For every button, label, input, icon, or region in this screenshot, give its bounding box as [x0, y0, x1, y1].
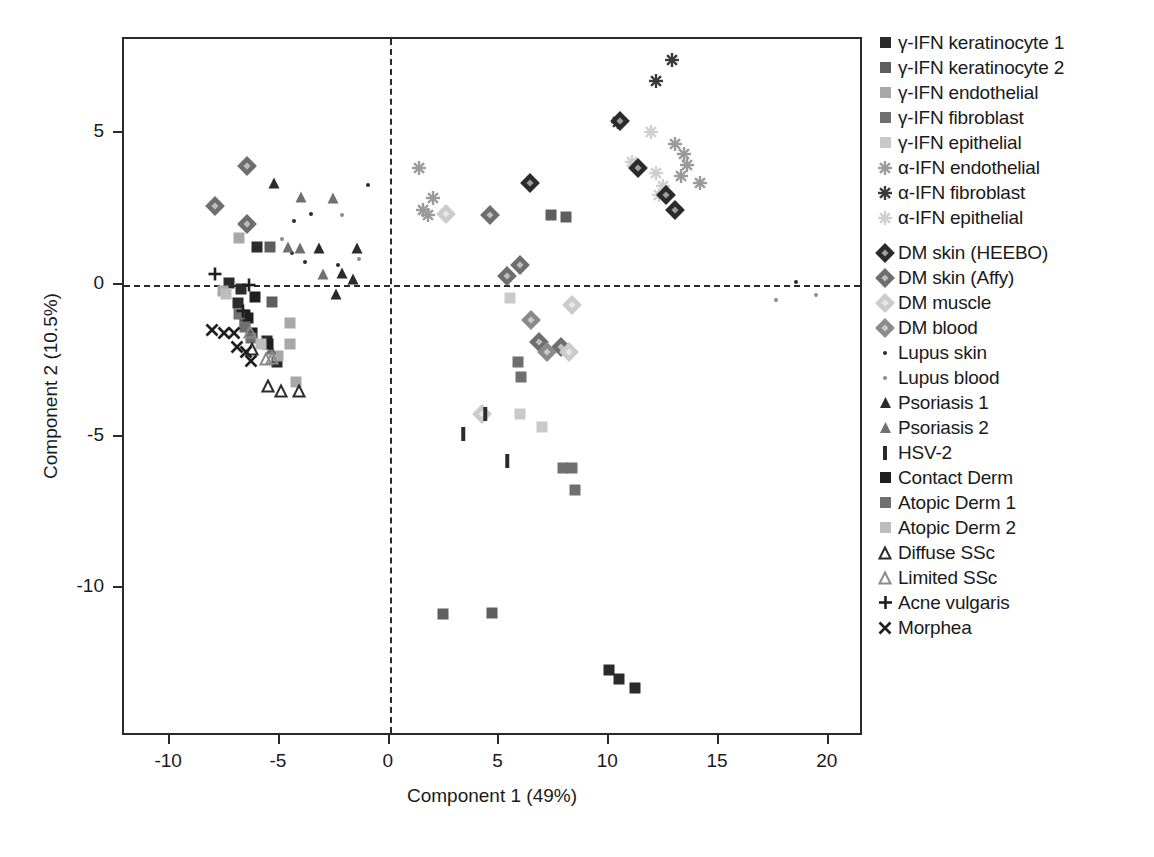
square-marker-icon: [570, 484, 581, 495]
data-point: [239, 317, 250, 328]
square-marker-icon: [546, 210, 557, 221]
data-point: [208, 267, 223, 282]
legend-item[interactable]: Contact Derm: [872, 465, 1152, 490]
data-point: [505, 454, 509, 468]
legend-swatch: [872, 490, 898, 515]
data-point: [537, 422, 548, 433]
data-point: [336, 266, 349, 279]
diamond-inner-notch: [478, 410, 485, 417]
legend-swatch: [872, 130, 898, 155]
diamond-inner-notch: [672, 207, 679, 214]
bar-marker-icon: [883, 446, 887, 460]
triangle-marker-icon: [316, 268, 329, 281]
legend-label: Acne vulgaris: [898, 592, 1009, 614]
square-marker-icon: [515, 408, 526, 419]
square-marker-icon: [246, 332, 257, 343]
data-point: [251, 241, 262, 252]
legend-item[interactable]: γ-IFN fibroblast: [872, 105, 1152, 130]
legend-swatch: [872, 155, 898, 180]
legend-item[interactable]: Atopic Derm 1: [872, 490, 1152, 515]
data-point: [565, 298, 579, 312]
diamond-inner-notch: [543, 348, 550, 355]
data-point: [515, 408, 526, 419]
legend-label: α-IFN endothelial: [898, 157, 1040, 179]
plus-marker-icon: [235, 303, 250, 318]
data-point: [357, 257, 361, 261]
square-marker-icon: [234, 308, 245, 319]
diamond-marker-icon: [529, 333, 549, 353]
square-marker-icon: [513, 357, 524, 368]
legend-item[interactable]: Psoriasis 1: [872, 390, 1152, 415]
legend-item[interactable]: Diffuse SSc: [872, 540, 1152, 565]
legend-item[interactable]: DM skin (HEEBO): [872, 240, 1152, 265]
square-marker-icon: [265, 241, 276, 252]
legend-item[interactable]: α-IFN fibroblast: [872, 180, 1152, 205]
legend-item[interactable]: γ-IFN endothelial: [872, 80, 1152, 105]
diamond-inner-notch: [243, 221, 250, 228]
square-marker-icon: [272, 351, 283, 362]
data-point: [439, 207, 453, 221]
square-marker-icon: [221, 288, 232, 299]
legend-label: Morphea: [898, 617, 972, 639]
triangle-marker-icon: [313, 242, 326, 255]
data-point: [524, 313, 538, 327]
dot-marker-icon: [336, 263, 340, 267]
legend-swatch: [872, 55, 898, 80]
data-point: [329, 287, 342, 300]
triangle-marker-icon: [879, 396, 892, 409]
legend-swatch: [872, 565, 898, 590]
triangle-marker-icon: [265, 342, 278, 355]
legend-item[interactable]: Limited SSc: [872, 565, 1152, 590]
legend-item[interactable]: HSV-2: [872, 440, 1152, 465]
diamond-inner-notch: [881, 324, 888, 331]
square-marker-icon: [561, 211, 572, 222]
legend-item[interactable]: DM muscle: [872, 290, 1152, 315]
legend-label: DM blood: [898, 317, 978, 339]
data-point: [673, 168, 689, 184]
legend-item[interactable]: Lupus blood: [872, 365, 1152, 390]
legend-item[interactable]: α-IFN endothelial: [872, 155, 1152, 180]
legend-item[interactable]: Atopic Derm 2: [872, 515, 1152, 540]
legend-label: Psoriasis 2: [898, 417, 989, 439]
legend-item[interactable]: DM skin (Affy): [872, 265, 1152, 290]
dot-marker-icon: [883, 351, 887, 355]
square-marker-icon: [217, 285, 228, 296]
triangle-open-marker-icon: [261, 379, 275, 393]
legend-label: γ-IFN endothelial: [898, 82, 1038, 104]
legend-item[interactable]: Morphea: [872, 615, 1152, 640]
triangle-open-marker-icon: [265, 351, 279, 365]
data-point: [561, 211, 572, 222]
legend-item[interactable]: DM blood: [872, 315, 1152, 340]
dot-marker-icon: [774, 298, 778, 302]
legend-swatch: [872, 315, 898, 340]
legend-item[interactable]: Acne vulgaris: [872, 590, 1152, 615]
y-tick-label: 5: [93, 120, 104, 142]
diamond-marker-icon: [875, 293, 895, 313]
data-point: [554, 340, 568, 354]
dot-marker-icon: [814, 293, 818, 297]
diamond-marker-icon: [537, 342, 557, 362]
legend-item[interactable]: γ-IFN epithelial: [872, 130, 1152, 155]
dot-marker-icon: [303, 260, 307, 264]
diamond-marker-icon: [610, 111, 630, 131]
legend-item[interactable]: Psoriasis 2: [872, 415, 1152, 440]
dot-marker-icon: [366, 183, 370, 187]
legend-label: HSV-2: [898, 442, 952, 464]
data-point: [316, 268, 329, 281]
legend-item[interactable]: γ-IFN keratinocyte 2: [872, 55, 1152, 80]
x-tick-label: 20: [816, 750, 837, 772]
data-point: [664, 52, 680, 68]
square-marker-icon: [880, 37, 891, 48]
diamond-inner-notch: [881, 249, 888, 256]
square-marker-icon: [224, 278, 235, 289]
square-marker-icon: [239, 310, 250, 321]
y-tick-mark: [113, 283, 122, 285]
legend-item[interactable]: γ-IFN keratinocyte 1: [872, 30, 1152, 55]
square-marker-icon: [537, 422, 548, 433]
diamond-marker-icon: [551, 337, 571, 357]
legend-item[interactable]: Lupus skin: [872, 340, 1152, 365]
star-marker-icon: [643, 124, 659, 140]
star-marker-icon: [679, 157, 695, 173]
diamond-marker-icon: [237, 214, 257, 234]
legend-item[interactable]: α-IFN epithelial: [872, 205, 1152, 230]
